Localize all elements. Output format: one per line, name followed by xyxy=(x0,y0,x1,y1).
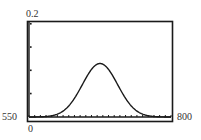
plot-area xyxy=(0,0,201,140)
plot-frame xyxy=(28,22,173,122)
y-axis-ticks xyxy=(30,23,32,94)
normal-curve xyxy=(29,64,171,117)
